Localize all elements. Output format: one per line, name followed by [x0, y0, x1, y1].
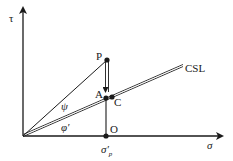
phi-angle-label: φ′ — [61, 122, 70, 133]
sigma-axis-label: σ — [207, 140, 212, 151]
stress-path-p-to-c — [106, 62, 109, 92]
psi-angle-label: ψ — [61, 101, 68, 112]
tau-axis-label: τ — [9, 13, 13, 24]
label-p: P — [96, 51, 102, 62]
sigma-p-marker-label: σ′p — [101, 144, 112, 158]
sigma-p-subscript: p — [109, 150, 113, 158]
sigma-p-symbol: σ′ — [101, 143, 109, 155]
stress-path-diagram — [0, 0, 233, 161]
label-a: A — [95, 89, 103, 100]
csl-line — [23, 65, 183, 137]
point-p — [104, 57, 109, 62]
label-c: C — [114, 97, 121, 108]
csl-label: CSL — [185, 63, 205, 74]
point-o — [103, 133, 108, 138]
label-o: O — [110, 124, 118, 135]
point-a — [103, 95, 108, 100]
